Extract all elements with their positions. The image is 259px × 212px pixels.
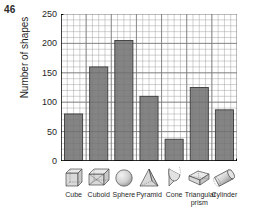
y-axis-title: Number of shapes xyxy=(19,0,30,118)
y-axis-tick-labels: 050100150200250 xyxy=(29,14,57,161)
pyramid-icon xyxy=(136,165,161,190)
x-axis-tick-labels: CubeCuboidSpherePyramidConeTriangular pr… xyxy=(55,191,259,211)
cube-icon xyxy=(61,165,86,190)
cylinder-icon xyxy=(212,165,237,190)
y-tick-label: 50 xyxy=(31,127,57,136)
shape-icon-row xyxy=(61,165,257,190)
y-tick-label: 0 xyxy=(31,157,57,166)
cuboid-icon xyxy=(86,165,111,190)
y-axis-arrow xyxy=(61,14,64,15)
y-tick-label: 250 xyxy=(31,10,57,19)
bar-sphere[interactable] xyxy=(115,40,133,161)
sphere-icon xyxy=(111,165,136,190)
bar-triangular-prism[interactable] xyxy=(190,88,208,162)
x-axis-arrow xyxy=(236,158,237,161)
bar-cone[interactable] xyxy=(165,139,183,161)
bar-chart-figure: Number of shapes 050100150200250 CubeCub… xyxy=(0,0,259,212)
plot-svg xyxy=(61,14,237,161)
x-tick-label: Cylinder xyxy=(210,191,239,199)
bar-pyramid[interactable] xyxy=(140,96,158,161)
bar-cube[interactable] xyxy=(65,114,83,161)
triangular-prism-icon xyxy=(187,165,212,190)
y-tick-label: 200 xyxy=(31,39,57,48)
cone-icon xyxy=(162,165,187,190)
plot-area xyxy=(61,14,237,161)
bar-cylinder[interactable] xyxy=(215,110,233,161)
y-tick-label: 150 xyxy=(31,68,57,77)
y-tick-label: 100 xyxy=(31,98,57,107)
bar-cuboid[interactable] xyxy=(90,67,108,161)
